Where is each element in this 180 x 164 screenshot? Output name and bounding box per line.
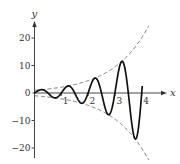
- axes: x y 1234 20100−10−20: [12, 8, 177, 158]
- y-tick-label: 0: [25, 88, 31, 98]
- x-axis-arrow-icon: [161, 91, 167, 95]
- y-tick-label: 10: [19, 61, 31, 71]
- x-tick-label: 2: [90, 96, 96, 106]
- y-axis-label: y: [31, 8, 38, 19]
- y-ticks: 20100−10−20: [12, 33, 35, 153]
- y-axis-arrow-icon: [32, 21, 36, 27]
- x-tick-label: 1: [63, 96, 69, 106]
- y-tick-label: −20: [12, 143, 31, 153]
- x-tick-label: 3: [116, 96, 122, 106]
- y-tick-label: −10: [12, 116, 31, 126]
- oscillation-curve: [35, 61, 143, 139]
- x-ticks: 1234: [61, 93, 149, 106]
- chart: x y 1234 20100−10−20: [0, 0, 180, 164]
- upper-envelope-line: [35, 26, 149, 90]
- y-tick-label: 20: [19, 33, 31, 43]
- x-axis-label: x: [170, 87, 176, 98]
- x-tick-label: 4: [143, 96, 149, 106]
